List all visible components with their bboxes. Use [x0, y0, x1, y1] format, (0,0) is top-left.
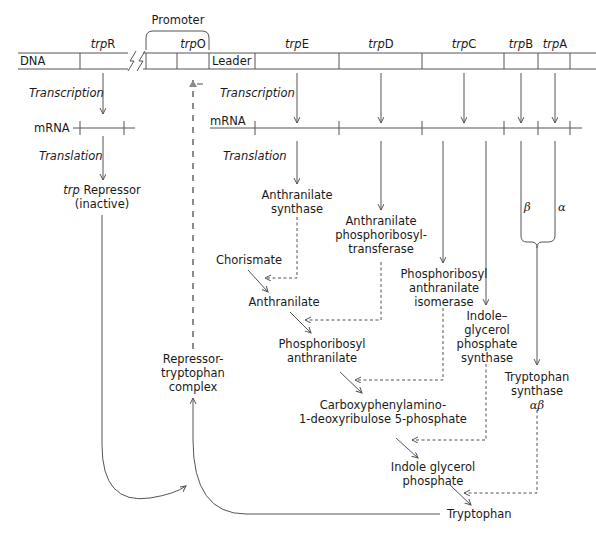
- right-transcription-label: Transcription: [220, 86, 295, 100]
- gene-trpO: trpO: [180, 37, 206, 51]
- beta-subunit-label: β: [524, 200, 531, 214]
- gene-trpA: trpA: [543, 37, 567, 51]
- left-mrna-label: mRNA: [34, 121, 70, 135]
- enzyme-anthranilate-synthase: Anthranilatesynthase: [261, 188, 332, 216]
- promoter-label: Promoter: [152, 13, 205, 27]
- metabolite-cdrp: Carboxyphenylamino-1-deoxyribulose 5-pho…: [299, 398, 467, 426]
- dna-label: DNA: [20, 54, 45, 68]
- enzyme-indole-glycerol-phosphate-synthase: Indole–glycerolphosphatesynthase: [457, 309, 518, 365]
- enzyme-tryptophan-synthase: Tryptophansynthaseαβ: [505, 370, 570, 412]
- metabolite-indole-glycerol-phosphate: Indole glycerolphosphate: [391, 460, 475, 488]
- gene-trpE: trpE: [285, 37, 309, 51]
- diagram-lines: [0, 0, 596, 547]
- gene-trpB: trpB: [509, 37, 533, 51]
- left-transcription-label: Transcription: [29, 86, 104, 100]
- enzyme-anthranilate-phosphoribosyltransferase: Anthranilatephosphoribosyl-transferase: [335, 214, 427, 256]
- trp-repressor-label: trp Repressor(inactive): [63, 183, 140, 211]
- gene-trpR: trpR: [91, 37, 116, 51]
- gene-trpC: trpC: [452, 37, 477, 51]
- alpha-subunit-label: α: [558, 200, 566, 214]
- leader-label: Leader: [212, 54, 251, 68]
- left-translation-label: Translation: [39, 149, 102, 163]
- metabolite-chorismate: Chorismate: [216, 253, 282, 267]
- metabolite-phosphoribosyl-anthranilate: Phosphoribosylanthranilate: [278, 337, 365, 365]
- enzyme-phosphoribosyl-anthranilate-isomerase: Phosphoribosylanthranilateisomerase: [400, 267, 487, 309]
- metabolite-anthranilate: Anthranilate: [248, 295, 319, 309]
- metabolite-tryptophan: Tryptophan: [447, 507, 512, 521]
- right-mrna-label: mRNA: [210, 114, 246, 128]
- right-translation-label: Translation: [223, 149, 286, 163]
- gene-trpD: trpD: [368, 37, 393, 51]
- repressor-tryptophan-complex-label: Repressor-tryptophancomplex: [161, 352, 225, 394]
